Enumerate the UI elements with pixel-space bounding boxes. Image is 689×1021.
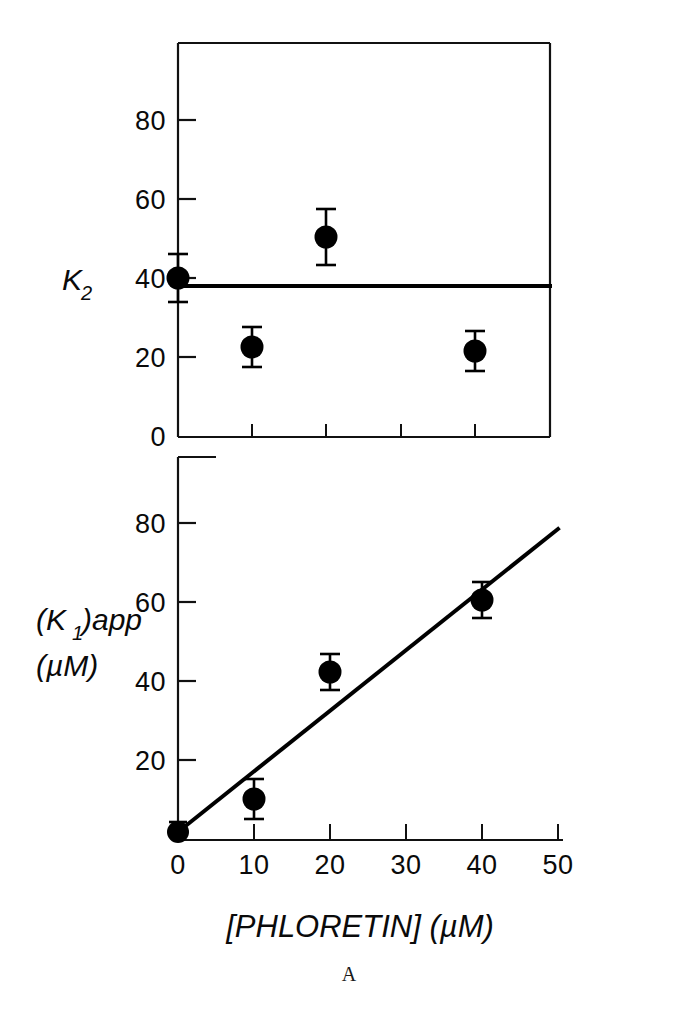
figure-svg: 80 60 40 20 0 K 2 [0, 0, 689, 1021]
bottom-ylabel-line1-tail: )app [79, 603, 142, 636]
bottom-x-ticklabel-30: 30 [390, 850, 421, 880]
bottom-x-ticklabel-50: 50 [542, 850, 573, 880]
bottom-marker-2 [319, 661, 342, 684]
top-y-ticklabel-40: 40 [135, 264, 166, 294]
bottom-ylabel-line1-main: (K [36, 603, 68, 636]
bottom-x-ticklabel-10: 10 [238, 850, 269, 880]
bottom-x-ticklabel-40: 40 [466, 850, 497, 880]
bottom-y-ticklabel-20: 20 [135, 746, 166, 776]
top-marker-0 [167, 267, 190, 290]
bottom-x-ticklabel-20: 20 [314, 850, 345, 880]
top-marker-3 [464, 340, 487, 363]
top-y-ticklabel-20: 20 [135, 343, 166, 373]
top-y-ticklabel-0: 0 [150, 422, 166, 452]
top-ylabel-subscript: 2 [80, 282, 92, 304]
top-y-ticklabel-80: 80 [135, 106, 166, 136]
x-axis-title: [PHLORETIN] (µM) [225, 909, 494, 944]
bottom-marker-3 [471, 589, 494, 612]
figure-caption-letter: A [342, 963, 357, 985]
bottom-marker-0 [167, 821, 189, 843]
top-y-ticklabel-60: 60 [135, 185, 166, 215]
bottom-x-ticklabel-0: 0 [170, 850, 186, 880]
bottom-y-ticklabel-40: 40 [135, 667, 166, 697]
bottom-y-ticklabel-80: 80 [135, 509, 166, 539]
bottom-marker-1 [243, 788, 266, 811]
top-marker-2 [315, 226, 338, 249]
figure-container: 80 60 40 20 0 K 2 [0, 0, 689, 1021]
bottom-panel-datapoint-0 [167, 821, 189, 843]
top-marker-1 [241, 336, 264, 359]
bottom-ylabel-line2: (µM) [36, 649, 98, 682]
